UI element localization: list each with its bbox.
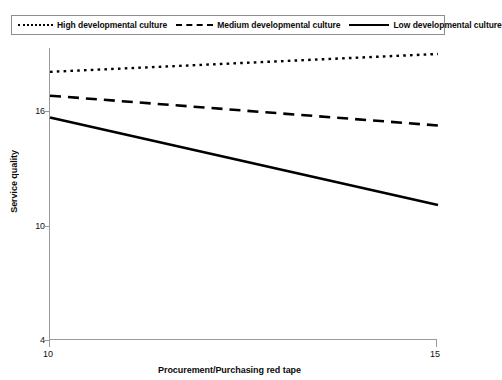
solid-line-swatch-icon [349, 20, 389, 30]
x-tick-label-15: 15 [430, 349, 440, 359]
dotted-line-swatch-icon [18, 20, 53, 30]
x-tick-mark-10 [49, 340, 50, 347]
x-tick-mark-15 [436, 340, 437, 347]
plot-frame [49, 48, 437, 340]
legend-item-medium: Medium developmental culture [167, 20, 340, 30]
series-line-medium [50, 96, 438, 126]
series-line-low [50, 118, 438, 205]
legend-label-high: High developmental culture [57, 20, 167, 30]
x-tick-label-10: 10 [43, 349, 53, 359]
dashed-line-swatch-icon [176, 20, 213, 30]
y-axis-title: Service quality [9, 150, 23, 213]
legend-item-low: Low developmental culture [340, 20, 501, 30]
plot-area [50, 48, 437, 339]
legend-item-high: High developmental culture [16, 20, 167, 30]
series-canvas [50, 48, 438, 340]
series-line-high [50, 54, 438, 72]
chart-legend: High developmental culture Medium develo… [11, 15, 445, 35]
legend-label-low: Low developmental culture [393, 20, 501, 30]
legend-label-medium: Medium developmental culture [217, 20, 340, 30]
x-axis-title: Procurement/Purchasing red tape [0, 365, 459, 375]
